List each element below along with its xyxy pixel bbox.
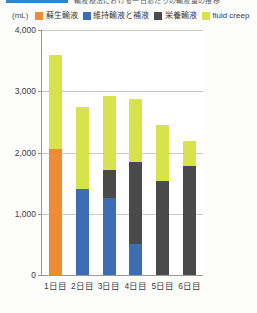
legend-label-fluid-creep: fluid creep	[212, 12, 249, 20]
x-axis-label: 1日目	[44, 279, 67, 291]
x-axis-label: 2日目	[71, 279, 94, 291]
y-axis-tick	[38, 91, 42, 92]
y-axis-tick	[38, 30, 42, 31]
legend-item-nutrition: 栄養輸液	[154, 12, 197, 20]
bar-segment	[129, 99, 142, 162]
gridline	[42, 153, 203, 154]
bar-segment	[156, 125, 169, 181]
x-axis-label: 5日目	[151, 279, 174, 291]
y-axis-tick	[38, 153, 42, 154]
y-axis-label: 0	[31, 270, 36, 280]
bar-segment	[103, 96, 116, 170]
title-accent-bar	[6, 0, 68, 3]
y-axis-unit-label: (mL)	[12, 11, 28, 20]
y-axis-label: 2,000	[15, 148, 36, 158]
x-axis-label: 3日目	[98, 279, 121, 291]
bar-5	[156, 125, 169, 275]
gridline	[42, 30, 203, 31]
y-axis-tick	[38, 275, 42, 276]
bar-segment	[76, 189, 89, 275]
bar-1	[49, 55, 62, 276]
plot-area: 01,0002,0003,0004,0001日目2日目3日目4日目5日目6日目	[41, 30, 203, 276]
legend-swatch-fluid-creep	[202, 12, 210, 20]
bar-3	[103, 96, 116, 275]
x-axis-label: 4日目	[125, 279, 148, 291]
y-axis-label: 4,000	[15, 25, 36, 35]
title-strip: 輸液療法における一日あたりの輸液量の推移	[0, 0, 257, 8]
bar-segment	[183, 141, 196, 166]
legend-swatch-resuscitation	[35, 12, 43, 20]
bar-6	[183, 141, 196, 275]
gridline	[42, 214, 203, 215]
chart-title: 輸液療法における一日あたりの輸液量の推移	[74, 0, 220, 5]
gridline	[42, 91, 203, 92]
y-axis-tick	[38, 214, 42, 215]
chart-legend: (mL) 蘇生輸液 維持輸液と補液 栄養輸液 fluid creep	[12, 11, 249, 20]
y-axis-label: 1,000	[15, 209, 36, 219]
legend-item-fluid-creep: fluid creep	[202, 12, 249, 20]
y-axis-label: 3,000	[15, 86, 36, 96]
bar-segment	[49, 149, 62, 275]
chart-figure: 輸液療法における一日あたりの輸液量の推移 (mL) 蘇生輸液 維持輸液と補液 栄…	[0, 0, 257, 313]
bar-segment	[183, 166, 196, 275]
bar-2	[76, 107, 89, 275]
bar-segment	[76, 107, 89, 190]
legend-item-resuscitation: 蘇生輸液	[35, 12, 78, 20]
legend-item-maintenance: 維持輸液と補液	[83, 12, 150, 20]
bar-segment	[49, 55, 62, 150]
legend-label-resuscitation: 蘇生輸液	[46, 12, 78, 20]
bar-segment	[129, 244, 142, 275]
bar-segment	[103, 198, 116, 275]
legend-label-nutrition: 栄養輸液	[165, 12, 197, 20]
bar-4	[129, 99, 142, 275]
bar-segment	[129, 162, 142, 245]
x-axis-label: 6日目	[178, 279, 201, 291]
legend-label-maintenance: 維持輸液と補液	[93, 12, 149, 20]
legend-swatch-nutrition	[154, 12, 162, 20]
bar-segment	[103, 170, 116, 199]
bar-segment	[156, 181, 169, 275]
legend-swatch-maintenance	[83, 12, 91, 20]
